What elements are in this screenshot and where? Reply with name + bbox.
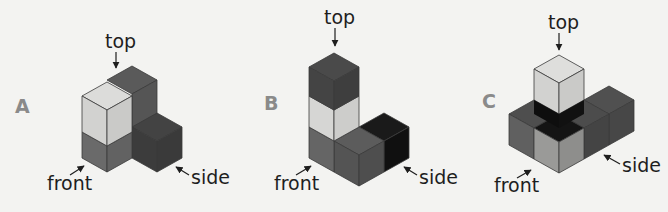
label-front-c: front (494, 174, 539, 196)
label-front-a: front (47, 172, 92, 194)
label-side-b: side (419, 166, 458, 188)
label-top-b: top (324, 6, 355, 28)
cube-views-diagram: A top front side B (0, 0, 668, 212)
label-side-c: side (622, 154, 661, 176)
cube-a-top-front (82, 82, 132, 146)
arrow-side-b (404, 167, 417, 175)
figure-letter-c: C (482, 90, 496, 112)
diagram-canvas: A top front side B (0, 0, 668, 212)
arrow-side-c (604, 155, 620, 164)
figure-a: A top front side (15, 30, 230, 194)
figure-letter-a: A (15, 95, 30, 117)
figure-c: C top front (482, 11, 661, 196)
figure-b: B top front side (264, 6, 458, 194)
label-top-c: top (548, 11, 579, 33)
cube-c-top-light (534, 55, 584, 128)
label-top-a: top (105, 30, 136, 52)
figure-letter-b: B (264, 92, 278, 114)
arrow-side-a (176, 167, 189, 175)
label-side-a: side (191, 166, 230, 188)
